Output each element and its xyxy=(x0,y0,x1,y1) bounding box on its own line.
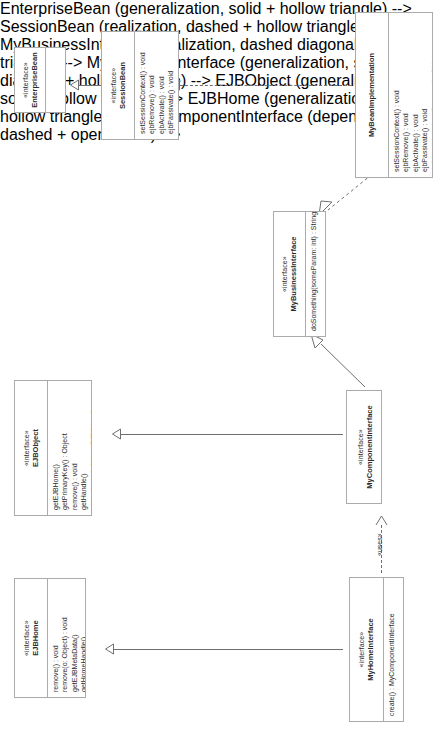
ejbhome-header: «interface» EJBHome xyxy=(15,579,47,697)
class-box-mybusinessinterface[interactable]: «interface» MyBusinessInterface doSometh… xyxy=(273,211,326,337)
ejbhome-member: getEJBMetaData() xyxy=(70,584,79,692)
triangle-arrow-enterprisebean xyxy=(70,79,79,91)
triangle-arrow-ejbobject xyxy=(112,428,121,440)
sessionbean-member: setSessionContext() : void xyxy=(138,37,147,134)
class-box-myhomeinterface[interactable]: «interface» MyHomeInterface create() : M… xyxy=(349,577,404,722)
enterprisebean-header: «interface» EnterpriseBean xyxy=(15,48,45,112)
sessionbean-member: ejbPassivate() : void xyxy=(166,37,175,134)
mycomponentinterface-stereotype: «interface» xyxy=(356,429,365,465)
ejbhome-member: remove(o: Object) : void xyxy=(60,584,69,692)
mybeanimplementation-member: setSessionContext() : void xyxy=(392,18,401,172)
class-box-ejbobject[interactable]: «interface» EJBObject getEJBHome() getPr… xyxy=(14,380,92,516)
edge-mycomponentinterface-to-ejbobject xyxy=(121,434,343,435)
sessionbean-name: SessionBean xyxy=(118,62,128,109)
mybeanimplementation-member: ejbRemove() : void xyxy=(401,18,410,172)
ejbobject-name: EJBObject xyxy=(31,429,41,467)
sessionbean-stereotype: «interface» xyxy=(109,68,118,104)
triangle-arrow-ejbhome xyxy=(105,643,114,655)
mybusinessinterface-stereotype: «interface» xyxy=(280,256,289,292)
ejbhome-name: EJBHome xyxy=(31,620,41,655)
myhomeinterface-stereotype: «interface» xyxy=(357,632,366,668)
ejbhome-member: remove() : void xyxy=(51,584,60,692)
myhomeinterface-member: create() : MyComponentInterface xyxy=(387,583,396,716)
sessionbean-header: «interface» SessionBean xyxy=(102,32,134,139)
diagram-canvas: EnterpriseBean (generalization, solid + … xyxy=(0,0,436,737)
ejbobject-member: isIdentical(ejbObject:EJBObject):boolean xyxy=(89,386,91,510)
mybeanimplementation-members: setSessionContext() : void ejbRemove() :… xyxy=(388,13,432,177)
enterprisebean-members xyxy=(45,48,65,112)
sessionbean-member: ejbActivate() : void xyxy=(157,37,166,134)
ejbobject-members: getEJBHome() getPrimaryKey() : Object re… xyxy=(47,381,91,515)
mybeanimplementation-header: MyBeanImplementation xyxy=(356,13,388,177)
mybeanimplementation-member: doSomething(someParam:int) : String xyxy=(430,18,432,172)
ejbobject-member: getHandle() xyxy=(79,386,88,510)
ejbobject-header: «interface» EJBObject xyxy=(15,381,47,515)
ejbobject-member: remove() : void xyxy=(70,386,79,510)
mycomponentinterface-name: MyComponentInterface xyxy=(365,405,375,488)
mybusinessinterface-members: doSomething(someParam: int) : String xyxy=(305,212,325,336)
ejbobject-stereotype: «interface» xyxy=(22,430,31,466)
enterprisebean-stereotype: «interface» xyxy=(21,62,30,98)
ejbobject-member: getPrimaryKey() : Object xyxy=(60,386,69,510)
mybeanimplementation-member: ejbPassivate() : void xyxy=(420,18,429,172)
edge-myhomeinterface-to-ejbhome xyxy=(114,649,343,650)
class-box-sessionbean[interactable]: «interface» SessionBean setSessionContex… xyxy=(101,31,179,140)
edge-sessionbean-to-enterprisebean xyxy=(79,85,102,86)
sessionbean-member: ejbRemove() : void xyxy=(147,37,156,134)
class-box-ejbhome[interactable]: «interface» EJBHome remove() : void remo… xyxy=(14,578,86,698)
class-box-enterprisebean[interactable]: «interface» EnterpriseBean xyxy=(14,47,66,113)
ejbhome-member: getHomeHandle() xyxy=(79,584,85,692)
ejbhome-stereotype: «interface» xyxy=(22,620,31,656)
class-box-mybeanimplementation[interactable]: MyBeanImplementation setSessionContext()… xyxy=(355,12,433,178)
mybusinessinterface-name: MyBusinessInterface xyxy=(289,236,299,311)
myhomeinterface-members: create() : MyComponentInterface xyxy=(383,578,403,721)
class-box-mycomponentinterface[interactable]: «interface» MyComponentInterface xyxy=(346,390,382,504)
mybusinessinterface-member: doSomething(someParam: int) : String xyxy=(309,217,318,331)
mycomponentinterface-header: «interface» MyComponentInterface xyxy=(347,391,383,503)
edge-label-uses: «uses» xyxy=(376,533,384,556)
enterprisebean-name: EnterpriseBean xyxy=(30,52,40,107)
mybeanimplementation-name: MyBeanImplementation xyxy=(367,53,377,137)
myhomeinterface-name: MyHomeInterface xyxy=(366,618,376,681)
edge-mybeanimpl-to-sessionbean xyxy=(180,85,352,86)
sessionbean-members: setSessionContext() : void ejbRemove() :… xyxy=(134,32,178,139)
mybusinessinterface-header: «interface» MyBusinessInterface xyxy=(274,212,305,336)
open-arrow-mycomponentinterface xyxy=(375,515,388,526)
ejbhome-members: remove() : void remove(o: Object) : void… xyxy=(47,579,85,697)
myhomeinterface-header: «interface» MyHomeInterface xyxy=(350,578,383,721)
ejbobject-member: getEJBHome() xyxy=(51,386,60,510)
mybeanimplementation-member: ejbActivate() : void xyxy=(411,18,420,172)
edge-mycomponentinterface-to-mybusinessinterface xyxy=(305,330,385,390)
